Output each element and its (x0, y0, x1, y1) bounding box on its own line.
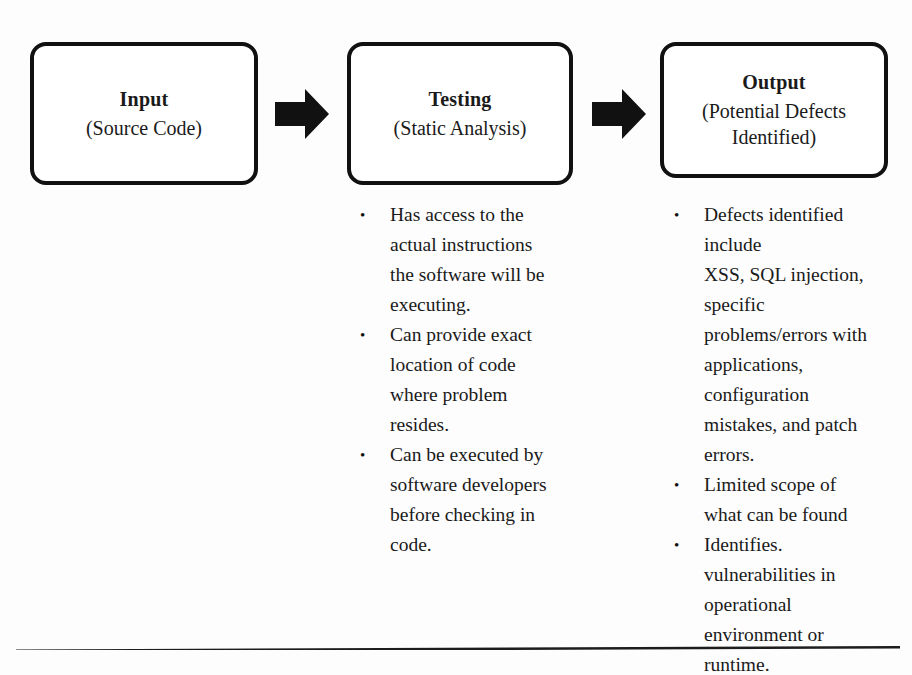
bullet-point-icon: • (674, 200, 704, 230)
footer-divider (16, 646, 900, 650)
process-box-output-subtitle: (Potential Defects Identified) (694, 98, 854, 151)
bullet-point-icon: • (360, 320, 390, 350)
process-box-testing: Testing (Static Analysis) (347, 42, 573, 185)
bullet-point-icon: • (360, 200, 390, 230)
process-box-input-title: Input (120, 86, 169, 112)
list-item-text: Defects identified include XSS, SQL inje… (704, 200, 900, 470)
list-item-text: Can be executed by software developers b… (390, 440, 586, 560)
list-item: • Can provide exact location of code whe… (360, 320, 586, 440)
process-box-input: Input (Source Code) (30, 42, 258, 185)
right-block-arrow-icon (275, 87, 329, 141)
list-item-text: Limited scope of what can be found (704, 470, 900, 530)
process-box-output: Output (Potential Defects Identified) (660, 42, 888, 178)
bullet-list-output: • Defects identified include XSS, SQL in… (674, 200, 900, 675)
list-item: • Can be executed by software developers… (360, 440, 586, 560)
bullet-point-icon: • (674, 530, 704, 560)
list-item: • Defects identified include XSS, SQL in… (674, 200, 900, 470)
list-item: • Has access to the actual instructions … (360, 200, 586, 320)
list-item-text: Has access to the actual instructions th… (390, 200, 586, 320)
list-item: • Identifies. vulnerabilities in operati… (674, 530, 900, 675)
right-block-arrow-icon (592, 87, 646, 141)
process-box-output-title: Output (742, 69, 805, 95)
bullet-point-icon: • (360, 440, 390, 470)
list-item-text: Can provide exact location of code where… (390, 320, 586, 440)
process-box-testing-subtitle: (Static Analysis) (386, 115, 535, 141)
bullet-list-testing: • Has access to the actual instructions … (360, 200, 586, 560)
list-item-text: Identifies. vulnerabilities in operation… (704, 530, 900, 675)
bullet-point-icon: • (674, 470, 704, 500)
list-item: • Limited scope of what can be found (674, 470, 900, 530)
process-box-input-subtitle: (Source Code) (78, 115, 210, 141)
process-box-testing-title: Testing (429, 86, 492, 112)
